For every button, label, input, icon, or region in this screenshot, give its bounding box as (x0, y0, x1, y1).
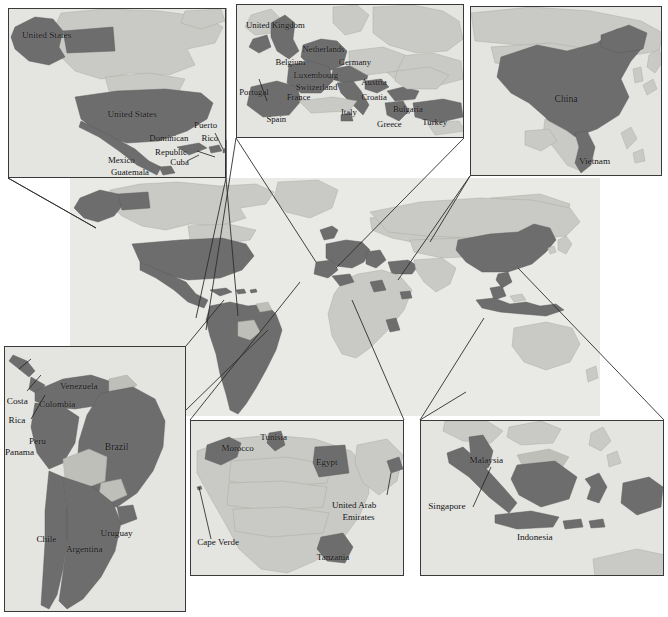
inset-af-svg (191, 421, 404, 576)
inset-north-america[interactable]: United States United States Puerto Rico … (8, 8, 226, 178)
inset-southeast-asia[interactable]: Malaysia Singapore Indonesia (420, 420, 664, 576)
inset-sea-svg (421, 421, 664, 576)
inset-cn-svg (471, 7, 662, 176)
world-map-figure: United States United States Puerto Rico … (0, 0, 668, 617)
inset-south-america[interactable]: Venezuela Colombia Costa Rica Peru Panam… (4, 346, 186, 612)
inset-africa-middle-east[interactable]: Tunisia Morocco Egypt United Arab Emirat… (190, 420, 404, 576)
inset-sa-svg (5, 347, 186, 612)
inset-eu-svg (237, 5, 464, 138)
inset-europe[interactable]: United Kingdom Netherlands Belgium Germa… (236, 4, 464, 138)
inset-china[interactable]: China Vietnam (470, 6, 662, 176)
inset-na-svg (9, 9, 226, 178)
